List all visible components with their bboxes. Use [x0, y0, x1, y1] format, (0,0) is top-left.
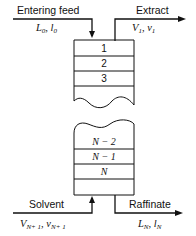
solvent-label: Solvent — [29, 198, 64, 210]
arrow-down-icon — [89, 31, 95, 38]
extract-symbol: V1, v1 — [132, 22, 155, 35]
raffinate-symbol: LN, lN — [137, 218, 162, 231]
feed-symbol: L0, l0 — [35, 22, 58, 35]
stage-3: 3 — [101, 73, 107, 84]
stage-n-minus-1: N − 1 — [91, 151, 115, 162]
stage-n: N — [100, 166, 109, 177]
extraction-cascade-diagram: Entering feed L0, l0 Extract V1, v1 1 2 … — [0, 0, 196, 236]
arrow-up-icon — [89, 196, 95, 203]
stage-1: 1 — [101, 43, 107, 54]
stage-2: 2 — [101, 58, 107, 69]
extract-label: Extract — [136, 4, 169, 16]
arrow-right-icon — [178, 16, 186, 22]
solvent-symbol: VN+ 1, vN+ 1 — [20, 218, 66, 231]
feed-label: Entering feed — [17, 4, 80, 16]
arrow-right-icon — [175, 210, 183, 216]
raffinate-label: Raffinate — [129, 198, 171, 210]
stage-n-minus-2: N − 2 — [91, 136, 115, 147]
